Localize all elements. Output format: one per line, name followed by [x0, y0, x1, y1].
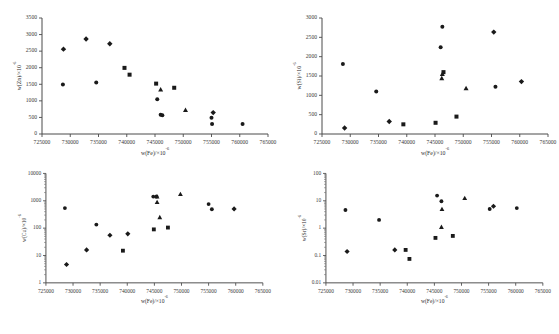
svg-text:w(Sr)/×10-6: w(Sr)/×10-6 — [297, 215, 308, 241]
panel-zn: 7250007300007350007400007450007500007550… — [0, 0, 279, 167]
data-point — [166, 226, 170, 230]
svg-text:500: 500 — [29, 114, 38, 120]
svg-text:725000: 725000 — [318, 288, 334, 294]
svg-text:3000: 3000 — [26, 31, 37, 37]
svg-text:10: 10 — [316, 197, 322, 203]
svg-text:740000: 740000 — [118, 139, 135, 145]
data-point — [158, 87, 163, 92]
data-point — [439, 76, 444, 81]
svg-text:w(Cu)/×10-6: w(Cu)/×10-6 — [17, 214, 28, 242]
svg-text:765000: 765000 — [255, 288, 271, 294]
data-point — [434, 236, 438, 240]
svg-text:735000: 735000 — [370, 139, 387, 145]
svg-text:735000: 735000 — [92, 288, 108, 294]
svg-text:100: 100 — [33, 224, 41, 230]
data-point — [122, 66, 126, 70]
svg-text:10: 10 — [36, 252, 42, 258]
svg-text:725000: 725000 — [34, 139, 51, 145]
svg-text:755000: 755000 — [483, 139, 500, 145]
svg-text:0: 0 — [314, 130, 317, 136]
svg-text:1500: 1500 — [306, 72, 317, 78]
data-point — [94, 80, 98, 84]
data-point — [451, 234, 455, 238]
svg-text:745000: 745000 — [427, 139, 444, 145]
data-point — [231, 206, 236, 211]
data-point — [210, 116, 214, 120]
svg-text:745000: 745000 — [146, 288, 162, 294]
data-point — [183, 107, 188, 112]
data-point — [519, 79, 524, 84]
data-point — [401, 122, 405, 126]
svg-text:w(Zn)/×10-6: w(Zn)/×10-6 — [12, 62, 23, 91]
data-point — [392, 247, 397, 252]
data-point — [94, 223, 98, 227]
svg-text:740000: 740000 — [398, 139, 415, 145]
svg-text:2000: 2000 — [26, 64, 37, 70]
svg-text:735000: 735000 — [372, 288, 388, 294]
svg-text:755000: 755000 — [481, 288, 497, 294]
svg-text:725000: 725000 — [314, 139, 331, 145]
svg-text:1000: 1000 — [306, 92, 317, 98]
svg-text:500: 500 — [309, 111, 318, 117]
svg-text:1: 1 — [38, 279, 41, 285]
panel-sr: 7250007300007350007400007450007500007550… — [280, 160, 559, 327]
data-point — [107, 41, 112, 46]
svg-text:760000: 760000 — [508, 288, 524, 294]
svg-text:1000: 1000 — [30, 197, 41, 203]
data-point — [241, 122, 245, 126]
svg-text:2000: 2000 — [306, 53, 317, 59]
svg-text:755000: 755000 — [203, 139, 220, 145]
svg-text:760000: 760000 — [228, 288, 244, 294]
svg-text:w(Fe)/×10-6: w(Fe)/×10-6 — [141, 146, 169, 157]
panel-si: 7250007300007350007400007450007500007550… — [280, 0, 559, 167]
data-point — [207, 202, 211, 206]
svg-text:735000: 735000 — [90, 139, 107, 145]
svg-text:760000: 760000 — [511, 139, 528, 145]
svg-text:760000: 760000 — [231, 139, 248, 145]
svg-text:765000: 765000 — [535, 288, 551, 294]
data-point — [404, 248, 408, 252]
data-point — [125, 231, 130, 236]
svg-text:2500: 2500 — [306, 34, 317, 40]
svg-text:2500: 2500 — [26, 47, 37, 53]
data-point — [210, 110, 215, 115]
svg-text:w(Si)/×10-6: w(Si)/×10-6 — [292, 62, 303, 89]
data-point — [435, 194, 439, 198]
svg-text:750000: 750000 — [175, 139, 192, 145]
data-point — [155, 200, 160, 204]
data-point — [440, 207, 445, 211]
svg-text:3000: 3000 — [306, 14, 317, 20]
svg-text:740000: 740000 — [119, 288, 135, 294]
data-point — [344, 208, 348, 212]
data-point — [439, 225, 444, 229]
data-point — [61, 83, 65, 87]
svg-text:1500: 1500 — [26, 81, 37, 87]
data-point — [491, 29, 496, 34]
svg-text:0.01: 0.01 — [312, 279, 322, 285]
svg-text:730000: 730000 — [345, 288, 361, 294]
svg-text:w(Fe)/×10-6: w(Fe)/×10-6 — [421, 295, 448, 306]
data-point — [377, 218, 381, 222]
svg-text:745000: 745000 — [426, 288, 442, 294]
plot-zn: 7250007300007350007400007450007500007550… — [0, 0, 279, 167]
plot-cu: 7250007300007350007400007450007500007550… — [0, 160, 279, 327]
data-point — [488, 207, 492, 211]
data-point — [83, 36, 88, 41]
data-point — [128, 73, 132, 77]
svg-text:730000: 730000 — [62, 139, 79, 145]
data-point — [172, 86, 176, 90]
data-point — [454, 115, 458, 119]
data-point — [439, 45, 443, 49]
svg-text:100: 100 — [313, 170, 321, 176]
data-point — [64, 262, 69, 267]
svg-text:w(Fe)/×10-6: w(Fe)/×10-6 — [421, 146, 449, 157]
svg-text:745000: 745000 — [147, 139, 164, 145]
svg-text:755000: 755000 — [201, 288, 217, 294]
svg-text:3500: 3500 — [26, 14, 37, 20]
data-point — [107, 233, 112, 238]
svg-text:1000: 1000 — [26, 97, 37, 103]
svg-text:w(Fe)/×10-6: w(Fe)/×10-6 — [141, 295, 168, 306]
plot-si: 7250007300007350007400007450007500007550… — [280, 0, 559, 167]
svg-text:725000: 725000 — [38, 288, 54, 294]
svg-text:0: 0 — [34, 130, 37, 136]
